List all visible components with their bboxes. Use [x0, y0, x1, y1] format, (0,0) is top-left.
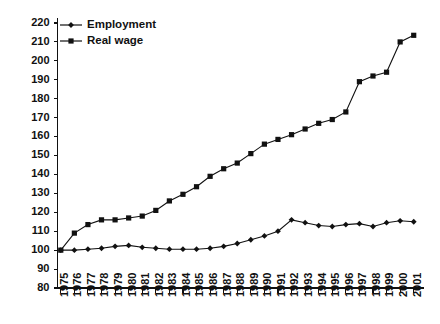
- legend-marker: [68, 38, 73, 43]
- legend-label: Employment: [87, 18, 156, 30]
- data-point-marker: [112, 217, 117, 222]
- data-point-marker: [411, 33, 416, 38]
- line-chart: 8090100110120130140150160170180190200210…: [0, 0, 440, 324]
- data-point-marker: [180, 192, 185, 197]
- data-point-marker: [99, 217, 104, 222]
- x-axis-tick-label: 1982: [153, 273, 165, 297]
- data-point-marker: [221, 166, 226, 171]
- x-axis-tick-label: 1978: [98, 273, 110, 297]
- x-axis-tick-label: 2001: [411, 273, 423, 297]
- y-axis-tick-label: 140: [31, 167, 49, 179]
- y-axis-tick-label: 150: [31, 148, 49, 160]
- data-point-marker: [140, 213, 145, 218]
- y-axis-tick-label: 180: [31, 92, 49, 104]
- data-point-marker: [384, 70, 389, 75]
- data-point-marker: [248, 151, 253, 156]
- x-axis-tick-label: 1992: [288, 273, 300, 297]
- x-axis-tick-label: 1981: [139, 273, 151, 297]
- y-axis-tick-label: 100: [31, 243, 49, 255]
- data-point-marker: [85, 222, 90, 227]
- x-axis-tick-label: 1997: [356, 273, 368, 297]
- y-axis-tick-label: 130: [31, 186, 49, 198]
- x-axis-tick-label: 1987: [221, 273, 233, 297]
- data-point-marker: [357, 79, 362, 84]
- data-point-marker: [289, 132, 294, 137]
- legend-label: Real wage: [87, 34, 143, 46]
- data-point-marker: [275, 137, 280, 142]
- data-point-marker: [126, 215, 131, 220]
- data-point-marker: [316, 121, 321, 126]
- x-axis-tick-label: 1998: [370, 273, 382, 297]
- y-axis-tick-label: 80: [37, 281, 49, 293]
- data-point-marker: [167, 198, 172, 203]
- x-axis-tick-label: 1988: [234, 273, 246, 297]
- x-axis-tick-label: 1984: [180, 272, 192, 297]
- y-axis-tick-label: 120: [31, 205, 49, 217]
- x-axis-tick-label: 1980: [126, 273, 138, 297]
- x-axis-tick-label: 1976: [71, 273, 83, 297]
- data-point-marker: [343, 109, 348, 114]
- y-axis-tick-label: 170: [31, 111, 49, 123]
- x-axis-tick-label: 1990: [261, 273, 273, 297]
- x-axis-tick-label: 1985: [193, 273, 205, 297]
- x-axis: 1975197619771978197919801981198219831984…: [58, 272, 425, 297]
- data-point-marker: [194, 184, 199, 189]
- data-point-marker: [72, 231, 77, 236]
- y-axis-tick-label: 160: [31, 129, 49, 141]
- data-point-marker: [153, 208, 158, 213]
- chart-container: 8090100110120130140150160170180190200210…: [0, 0, 440, 324]
- x-axis-tick-label: 1983: [166, 273, 178, 297]
- x-axis-tick-label: 1991: [275, 273, 287, 297]
- y-axis-tick-label: 220: [31, 16, 49, 28]
- data-point-marker: [235, 160, 240, 165]
- y-axis-tick-label: 210: [31, 35, 49, 47]
- x-axis-tick-label: 1999: [383, 273, 395, 297]
- data-point-marker: [330, 117, 335, 122]
- y-axis-tick-label: 200: [31, 54, 49, 66]
- y-axis-tick-label: 190: [31, 73, 49, 85]
- x-axis-tick-label: 1975: [58, 273, 70, 297]
- x-axis-tick-label: 1989: [248, 273, 260, 297]
- x-axis-tick-label: 1986: [207, 273, 219, 297]
- y-axis-tick-label: 90: [37, 262, 49, 274]
- data-point-marker: [58, 248, 63, 253]
- x-axis-tick-label: 1977: [85, 273, 97, 297]
- data-point-marker: [303, 126, 308, 131]
- data-point-marker: [262, 142, 267, 147]
- data-point-marker: [398, 39, 403, 44]
- x-axis-tick-label: 1993: [302, 273, 314, 297]
- data-point-marker: [370, 73, 375, 78]
- x-axis-tick-label: 2000: [397, 273, 409, 297]
- x-axis-tick-label: 1996: [343, 273, 355, 297]
- y-axis-tick-label: 110: [32, 224, 50, 236]
- data-point-marker: [208, 174, 213, 179]
- x-axis-tick-label: 1995: [329, 273, 341, 297]
- x-axis-tick-label: 1994: [316, 272, 328, 297]
- x-axis-tick-label: 1979: [112, 273, 124, 297]
